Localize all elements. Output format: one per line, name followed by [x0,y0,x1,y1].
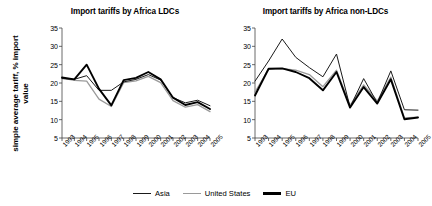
y-tick-label: 5 [42,135,58,142]
plot-area-non-ldcs [255,28,418,138]
y-tick-label: 15 [235,98,251,105]
series-line-united-states [62,76,210,111]
y-tick-label: 15 [42,98,58,105]
legend-item-eu: EU [263,189,296,198]
chart-title-ldcs: Import tariffs by Africa LDCs [0,6,222,17]
chart-title-non-ldcs: Import tariffs by Africa non-LDCs [222,6,429,17]
legend-item-asia: Asia [133,189,170,198]
legend-line-united-states-icon [183,193,201,194]
plot-area-ldcs [62,28,210,138]
y-tick-label: 10 [42,116,58,123]
legend-label-asia: Asia [155,189,170,198]
legend-line-asia-icon [133,193,151,194]
y-tick-label: 25 [235,61,251,68]
series-line-asia [62,75,210,106]
y-tick-label: 10 [235,116,251,123]
chart-legend: Asia United States EU [0,189,429,198]
y-tick-label: 20 [42,80,58,87]
x-tick-label: 2005 [417,133,432,148]
chart-panel-non-ldcs: Import tariffs by Africa non-LDCs 510152… [222,0,429,175]
series-line-united-states [255,69,418,118]
line-plot-ldcs [62,28,210,138]
legend-line-eu-icon [263,192,281,195]
y-tick-label: 30 [42,43,58,50]
y-tick-label: 25 [42,61,58,68]
y-tick-label: 20 [235,80,251,87]
y-tick-label: 5 [235,135,251,142]
legend-label-united-states: United States [205,189,251,198]
y-tick-label: 35 [235,25,251,32]
line-plot-non-ldcs [255,28,418,138]
y-tick-label: 30 [235,43,251,50]
legend-item-united-states: United States [183,189,251,198]
y-tick-label: 35 [42,25,58,32]
chart-panel-ldcs: Import tariffs by Africa LDCs 5101520253… [0,0,222,175]
legend-label-eu: EU [285,189,296,198]
series-line-eu [255,68,418,119]
